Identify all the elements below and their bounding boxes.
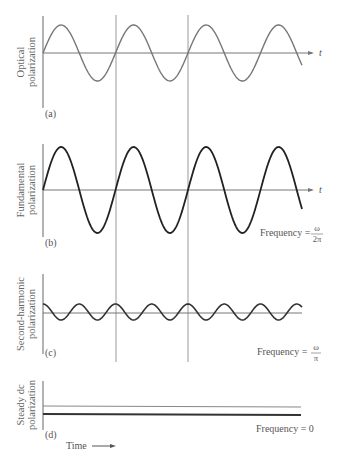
panel-tag: (d) bbox=[45, 429, 57, 441]
ylabel-line1: Fundamental bbox=[15, 163, 26, 218]
panel-tag: (a) bbox=[45, 108, 56, 120]
polarization-diagram: t Optical polarization (a) t Fundamental… bbox=[0, 0, 341, 467]
frequency-denominator: 2π bbox=[313, 234, 322, 244]
frequency-label: Frequency = 0 bbox=[256, 423, 314, 434]
t-axis-label: t bbox=[319, 184, 322, 195]
frequency-denominator: π bbox=[314, 353, 319, 363]
time-label: Time bbox=[66, 440, 87, 451]
frequency-numerator: ω bbox=[313, 342, 319, 352]
panel-dc: Steady dc polarization (d) Frequency = 0… bbox=[15, 379, 314, 451]
panel-optical: t Optical polarization (a) bbox=[15, 16, 322, 120]
dc-level-line bbox=[43, 414, 301, 415]
frequency-label: Frequency = bbox=[257, 346, 308, 357]
ylabel-line1: Steady dc bbox=[15, 384, 26, 425]
ylabel-line2: polarization bbox=[26, 164, 37, 215]
ylabel-line2: polarization bbox=[26, 379, 37, 430]
ylabel-line2: polarization bbox=[26, 36, 37, 87]
frequency-label: Frequency = bbox=[260, 227, 311, 238]
panel-tag: (c) bbox=[45, 347, 56, 359]
frequency-numerator: ω bbox=[314, 223, 320, 233]
ylabel-line1: Optical bbox=[15, 46, 26, 77]
ylabel-line2: polarization bbox=[26, 288, 37, 339]
baseline bbox=[43, 406, 301, 407]
panel-second-harmonic: Second-harmonic polarization (c) Frequen… bbox=[15, 274, 321, 363]
t-axis-label: t bbox=[319, 47, 322, 58]
ylabel-line1: Second-harmonic bbox=[15, 277, 26, 351]
arrow-icon bbox=[308, 188, 314, 192]
panel-tag: (b) bbox=[45, 237, 57, 249]
panel-fundamental: t Fundamental polarization (b) Frequency… bbox=[15, 144, 323, 249]
second-harmonic-wave bbox=[43, 304, 302, 320]
arrow-icon bbox=[308, 51, 314, 55]
time-arrow-icon bbox=[110, 444, 116, 448]
